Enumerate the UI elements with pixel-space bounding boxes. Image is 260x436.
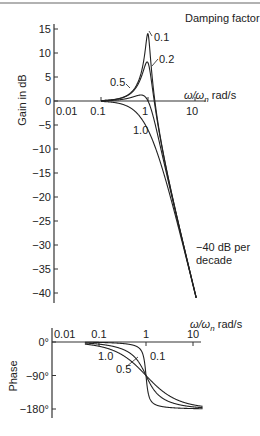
gain-curve-zeta-0.2: [101, 62, 196, 298]
phase-plot: 0°−90°−180°0.010.1110 Phase ω/ωn rad/s 1…: [7, 318, 243, 418]
phase-y-tick-label: 0°: [38, 336, 49, 348]
gain-y-tick-label: −30: [32, 239, 51, 251]
series-label-0.5: 0.5: [110, 76, 125, 88]
gain-y-tick-label: −35: [32, 263, 51, 275]
leader-0.1: [149, 31, 152, 36]
leader-0.5: [126, 84, 130, 88]
series-label-0.2: 0.2: [159, 53, 174, 65]
phase-x-tick-label: 0.01: [54, 328, 75, 340]
phase-x-tick-label: 0.1: [91, 328, 106, 340]
gain-y-tick-label: 15: [39, 23, 51, 35]
gain-curve-zeta-0.1: [101, 34, 196, 298]
gain-x-tick-label: 10: [186, 105, 198, 117]
gain-x-axis-label: ω/ωn rad/s: [184, 89, 237, 104]
phase-ticks: 0°−90°−180°0.010.1110: [20, 328, 199, 415]
gain-x-tick-label: 0.01: [56, 105, 77, 117]
phase-series-label-1.0: 1.0: [98, 350, 113, 362]
gain-y-tick-label: −10: [32, 143, 51, 155]
slope-annotation-line2: decade: [196, 254, 232, 266]
gain-x-label-omega: ω/ωn rad/s: [184, 89, 237, 104]
gain-plot: 151050−5−10−15−20−25−30−35−400.010.1110 …: [16, 12, 260, 303]
phase-series-label-0.1: 0.1: [150, 350, 165, 362]
gain-legend-title: Damping factor: [185, 12, 260, 24]
bode-plot: 151050−5−10−15−20−25−30−35−400.010.1110 …: [0, 0, 260, 436]
gain-y-tick-label: −5: [38, 119, 51, 131]
phase-y-tick-label: −90°: [26, 370, 49, 382]
gain-curve-zeta-1.0: [101, 101, 196, 297]
gain-curves: [101, 34, 196, 298]
phase-x-tick-label: 1: [143, 328, 149, 340]
gain-y-tick-label: −25: [32, 215, 51, 227]
gain-y-tick-label: −40: [32, 287, 51, 299]
series-label-1.0: 1.0: [133, 124, 148, 136]
phase-y-axis-label: Phase: [7, 360, 19, 391]
leader-0.2: [152, 59, 158, 66]
gain-axes: [54, 24, 206, 303]
gain-y-tick-label: −15: [32, 167, 51, 179]
gain-x-tick-label: 1: [142, 105, 148, 117]
gain-curve-zeta-0.5: [101, 95, 196, 298]
series-label-0.1: 0.1: [154, 31, 169, 43]
gain-y-tick-label: 5: [45, 71, 51, 83]
gain-y-tick-label: 0: [45, 95, 51, 107]
gain-y-axis-label: Gain in dB: [16, 74, 28, 125]
gain-y-tick-label: −20: [32, 191, 51, 203]
gain-y-tick-label: 10: [39, 47, 51, 59]
gain-x-tick-label: 0.1: [90, 105, 105, 117]
slope-annotation-line1: −40 dB per: [196, 241, 250, 253]
phase-y-tick-label: −180°: [20, 403, 49, 415]
